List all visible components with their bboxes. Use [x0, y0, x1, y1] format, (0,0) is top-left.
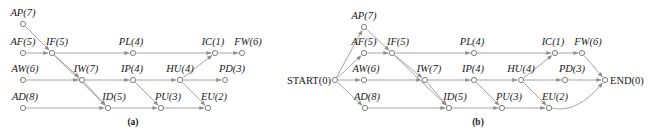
- node-hu-panel-b[interactable]: [518, 77, 523, 82]
- node-start-panel-b[interactable]: [332, 77, 337, 82]
- node-label-ap-panel-a: AP(7): [10, 7, 35, 18]
- node-pd-panel-b[interactable]: [562, 77, 567, 82]
- arrowhead-ID-to-PU: [493, 106, 498, 110]
- node-pu-panel-a[interactable]: [158, 105, 163, 110]
- arrowhead-START-to-AW: [355, 78, 360, 82]
- arrowhead-HU-to-PD: [556, 78, 561, 82]
- arrowhead-PD-to-END: [596, 78, 601, 82]
- arrowhead-HU-to-IC: [207, 55, 212, 60]
- node-if-panel-b[interactable]: [389, 50, 394, 55]
- node-fw-panel-b[interactable]: [579, 50, 584, 55]
- arrowhead-IC-to-FW: [573, 51, 578, 55]
- figure-container: AP(7)AF(5)IF(5)PL(4)IC(1)FW(6)AW(6)IW(7)…: [0, 0, 656, 135]
- node-label-ad-panel-b: AD(8): [354, 91, 380, 102]
- node-label-fw-panel-b: FW(6): [574, 36, 601, 47]
- node-iw-panel-b[interactable]: [422, 77, 427, 82]
- node-eu-panel-b[interactable]: [546, 105, 551, 110]
- node-label-af-panel-b: AF(5): [351, 36, 376, 47]
- node-label-pl-panel-b: PL(4): [460, 36, 485, 47]
- node-label-ip-panel-a: IP(4): [121, 63, 143, 74]
- node-label-ip-panel-b: IP(4): [462, 63, 484, 74]
- node-label-if-panel-a: IF(5): [46, 36, 68, 47]
- node-id-panel-b[interactable]: [446, 105, 451, 110]
- node-ip-panel-a[interactable]: [130, 77, 135, 82]
- node-label-pu-panel-a: PU(3): [155, 91, 181, 102]
- node-ad-panel-a[interactable]: [20, 105, 25, 110]
- panel-caption-a: (a): [127, 117, 138, 127]
- arrowhead-IW-to-IP: [465, 78, 470, 82]
- arrowhead-IP-to-HU: [171, 78, 176, 82]
- node-label-hu-panel-b: HU(4): [507, 63, 534, 74]
- node-pd-panel-a[interactable]: [222, 77, 227, 82]
- node-pl-panel-b[interactable]: [471, 50, 476, 55]
- node-ad-panel-b[interactable]: [362, 105, 367, 110]
- arrowhead-PU-to-EU: [199, 106, 204, 110]
- node-ic-panel-a[interactable]: [212, 50, 217, 55]
- node-aw-panel-b[interactable]: [361, 77, 366, 82]
- node-label-aw-panel-a: AW(6): [11, 63, 38, 74]
- node-pl-panel-a[interactable]: [130, 50, 135, 55]
- arrowhead-PL-to-IC: [206, 51, 211, 55]
- node-id-panel-a[interactable]: [105, 105, 110, 110]
- arrowhead-HU-to-PD: [216, 78, 221, 82]
- arrowhead-AD-to-ID: [99, 106, 104, 110]
- node-ip-panel-b[interactable]: [471, 77, 476, 82]
- node-af-panel-b[interactable]: [361, 50, 366, 55]
- node-pu-panel-b[interactable]: [499, 105, 504, 110]
- arrowhead-IP-to-HU: [512, 78, 517, 82]
- node-label-af-panel-a: AF(5): [10, 36, 35, 47]
- node-ap-panel-b[interactable]: [361, 24, 366, 29]
- node-ap-panel-a[interactable]: [20, 21, 25, 26]
- node-label-iw-panel-a: IW(7): [74, 63, 99, 74]
- node-label-pu-panel-b: PU(3): [496, 91, 522, 102]
- node-label-start-panel-b: START(0): [287, 75, 331, 86]
- arrowhead-IC-to-FW: [233, 51, 238, 55]
- arrowhead-IF-to-PL: [124, 51, 129, 55]
- node-label-id-panel-b: ID(5): [443, 91, 466, 102]
- arrowhead-IW-to-IP: [124, 78, 129, 82]
- node-label-end-panel-b: END(0): [610, 75, 644, 86]
- node-label-aw-panel-b: AW(6): [352, 63, 379, 74]
- panel-caption-b: (b): [472, 117, 484, 127]
- node-label-pd-panel-b: PD(3): [559, 63, 585, 74]
- node-label-fw-panel-a: FW(6): [234, 36, 261, 47]
- node-label-hu-panel-a: HU(4): [166, 63, 193, 74]
- node-label-id-panel-a: ID(5): [102, 91, 125, 102]
- node-ic-panel-b[interactable]: [552, 50, 557, 55]
- node-label-iw-panel-b: IW(7): [417, 63, 442, 74]
- node-label-ic-panel-a: IC(1): [202, 36, 225, 47]
- arrowhead-ID-to-PU: [152, 106, 157, 110]
- arrowhead-AF-to-IF: [43, 51, 48, 55]
- arrowhead-PL-to-IC: [546, 51, 551, 55]
- node-aw-panel-a[interactable]: [20, 77, 25, 82]
- node-label-ap-panel-b: AP(7): [351, 10, 376, 21]
- arrowhead-IF-to-PL: [465, 51, 470, 55]
- node-label-if-panel-b: IF(5): [387, 36, 409, 47]
- node-fw-panel-a[interactable]: [239, 50, 244, 55]
- arrowhead-AD-to-ID: [440, 106, 445, 110]
- node-end-panel-b[interactable]: [602, 77, 607, 82]
- node-eu-panel-a[interactable]: [205, 105, 210, 110]
- node-if-panel-a[interactable]: [49, 50, 54, 55]
- node-label-ic-panel-b: IC(1): [542, 36, 565, 47]
- node-iw-panel-a[interactable]: [79, 77, 84, 82]
- node-label-ad-panel-a: AD(8): [12, 91, 38, 102]
- node-hu-panel-a[interactable]: [177, 77, 182, 82]
- arrowhead-PU-to-EU: [540, 106, 545, 110]
- node-label-pd-panel-a: PD(3): [219, 63, 245, 74]
- node-af-panel-a[interactable]: [20, 50, 25, 55]
- node-label-eu-panel-a: EU(2): [201, 91, 227, 102]
- node-label-eu-panel-b: EU(2): [542, 91, 568, 102]
- arrowhead-AF-to-IF: [383, 51, 388, 55]
- node-label-pl-panel-a: PL(4): [119, 36, 144, 47]
